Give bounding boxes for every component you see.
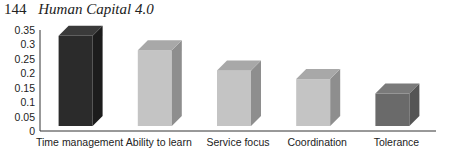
bar-ability-to-learn [138, 40, 182, 126]
bar-time-management [59, 26, 103, 126]
category-label: Time management [36, 136, 123, 148]
bars [59, 26, 420, 126]
category-label: Tolerance [374, 136, 420, 148]
bar-tolerance [375, 83, 419, 126]
y-tick-label: 0.35 [15, 24, 36, 36]
category-label: Coordination [287, 136, 347, 148]
category-label: Ability to learn [126, 136, 192, 148]
y-axis: 00.050.10.150.20.250.30.35 [15, 24, 40, 137]
category-labels: Time managementAbility to learnService f… [36, 136, 419, 148]
bar-service-focus [217, 60, 261, 126]
y-tick-label: 0.3 [20, 38, 35, 50]
category-label: Service focus [206, 136, 269, 148]
y-tick-label: 0.25 [15, 53, 36, 65]
bar-coordination [296, 69, 340, 126]
y-tick-label: 0.05 [15, 111, 36, 123]
y-tick-label: 0.2 [20, 67, 35, 79]
bar-chart: 00.050.10.150.20.250.30.35 Time manageme… [0, 0, 450, 156]
y-tick-label: 0.1 [20, 96, 35, 108]
y-tick-label: 0 [29, 125, 35, 137]
y-tick-label: 0.15 [15, 82, 36, 94]
